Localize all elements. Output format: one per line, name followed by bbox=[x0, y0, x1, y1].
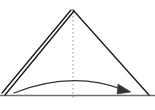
fold-diagram-canvas bbox=[0, 0, 155, 110]
fold-diagram-figure bbox=[0, 0, 155, 110]
